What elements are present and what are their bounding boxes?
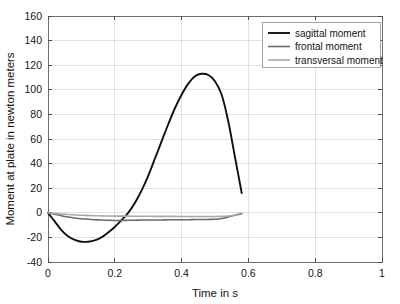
x-tick-label: 0.8: [308, 267, 323, 279]
y-tick-label: 20: [30, 182, 42, 194]
chart-legend[interactable]: sagittal momentfrontal momenttransversal…: [262, 22, 383, 67]
y-axis-title: Moment at plate in newton meters: [4, 52, 16, 225]
x-tick-label: 0.4: [174, 267, 189, 279]
legend-label: transversal moment: [295, 55, 383, 66]
y-tick-label: -40: [27, 256, 42, 268]
legend-label: frontal moment: [295, 41, 362, 52]
y-tick-label: -20: [27, 231, 42, 243]
x-axis-title: Time in s: [192, 287, 238, 299]
y-tick-label: 0: [36, 206, 42, 218]
y-tick-label: 80: [30, 108, 42, 120]
x-tick-label: 1: [379, 267, 385, 279]
x-tick-label: 0: [45, 267, 51, 279]
y-tick-label: 60: [30, 133, 42, 145]
y-tick-label: 100: [24, 83, 42, 95]
chart-canvas: -40-2002040608010012014016000.20.40.60.8…: [0, 0, 400, 304]
y-tick-label: 120: [24, 59, 42, 71]
y-tick-label: 160: [24, 10, 42, 22]
x-tick-label: 0.6: [241, 267, 256, 279]
y-tick-label: 40: [30, 157, 42, 169]
y-tick-label: 140: [24, 34, 42, 46]
x-tick-label: 0.2: [107, 267, 122, 279]
chart-figure: -40-2002040608010012014016000.20.40.60.8…: [0, 0, 400, 304]
legend-label: sagittal moment: [295, 28, 366, 39]
